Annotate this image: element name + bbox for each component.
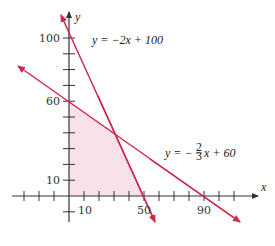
y-tick-label-100: 100 — [39, 32, 60, 45]
x-tick-label-10: 10 — [78, 204, 92, 217]
linear-inequality-graph: y x 100 60 10 10 50 90 y = −2x + 100 y =… — [0, 0, 275, 246]
x-tick-label-90: 90 — [197, 204, 211, 217]
x-tick-label-50: 50 — [137, 204, 151, 217]
y-tick-label-60: 60 — [46, 95, 60, 108]
x-axis-label: x — [260, 180, 267, 194]
equation-2-label: y = − 2 3 x + 60 — [164, 140, 235, 163]
equation-2-suffix: x + 60 — [203, 146, 235, 160]
equation-1-label: y = −2x + 100 — [91, 33, 163, 47]
line-2-lower-arrow — [150, 159, 240, 222]
equation-2-prefix: y = − — [164, 146, 193, 160]
y-tick-label-10: 10 — [46, 174, 60, 187]
equation-2-fraction-denominator: 3 — [196, 149, 202, 163]
y-axis-label: y — [74, 10, 81, 24]
